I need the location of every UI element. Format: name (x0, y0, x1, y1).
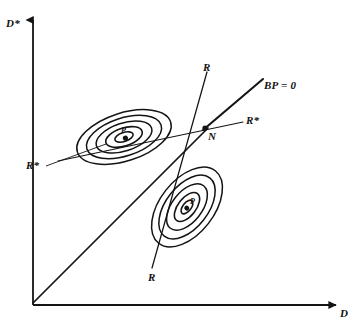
axes-group (33, 20, 336, 305)
bp-locus-label: BP = 0 (264, 80, 296, 91)
upper-cluster-center-label: P (121, 127, 126, 135)
lower-cluster-center-label: P (190, 198, 195, 206)
r-locus-label-bottom: R (148, 272, 156, 283)
loci-group (33, 72, 263, 303)
upper-left-contour-cluster (70, 99, 178, 175)
diagonal-45-line (33, 128, 208, 303)
r-locus-label-top: R (203, 62, 211, 73)
equilibrium-point-marker (202, 125, 207, 130)
rstar-locus-label-left: R* (26, 160, 39, 171)
diagram-canvas (0, 0, 356, 329)
x-axis-label: D (340, 308, 348, 319)
y-axis-label: D* (6, 18, 20, 29)
rstar-locus-label-right: R* (246, 115, 259, 126)
equilibrium-point-label: N (208, 131, 216, 142)
rstar-callout-leader (46, 144, 106, 166)
lower-right-contour-cluster (137, 154, 236, 260)
policy-assignment-diagram: D* D BP = 0 R R* N R* R P P (0, 0, 356, 329)
